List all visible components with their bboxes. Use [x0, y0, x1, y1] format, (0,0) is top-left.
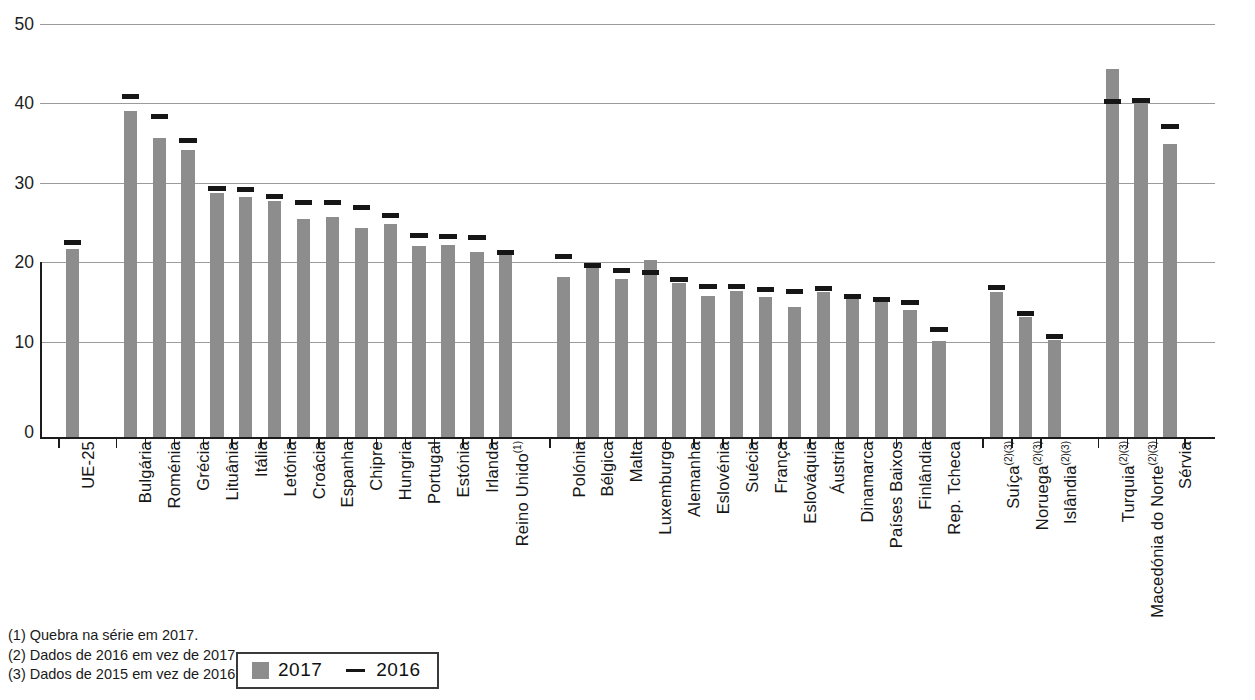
- bar-group: [355, 14, 368, 439]
- bar-2017: [1134, 102, 1147, 437]
- x-axis-label-let-nia: Letónia: [281, 441, 300, 497]
- bar-group: [644, 14, 657, 439]
- x-axis-label-est-nia: Estónia: [454, 441, 473, 497]
- x-axis-label--ustria: Áustria: [829, 441, 848, 494]
- y-tick-label-30: 30: [15, 173, 34, 194]
- bar-2017: [470, 252, 483, 437]
- bar-group: [615, 14, 628, 439]
- y-tick-label-50: 50: [15, 14, 34, 35]
- bar-2017: [1048, 340, 1061, 437]
- marker-2016: [208, 186, 225, 191]
- marker-2016: [237, 187, 254, 192]
- marker-2016: [1132, 98, 1149, 103]
- x-axis-label-chipre: Chipre: [367, 441, 386, 491]
- x-axis-label-pa-ses-baixos: Países Baixos: [887, 441, 906, 548]
- bar-group: [412, 14, 425, 439]
- y-axis-labels: 50 40 30 20 10 0: [0, 14, 40, 439]
- x-axis-labels: UE-25BulgáriaRoméniaGréciaLituâniaItália…: [40, 441, 1215, 611]
- bar-2017: [730, 291, 743, 437]
- marker-2016: [1046, 334, 1063, 339]
- x-axis-label-eslov-nia: Eslovénia: [714, 441, 733, 514]
- y-tick-label-0: 0: [24, 422, 34, 443]
- marker-2016: [64, 240, 81, 245]
- bar-group: [1106, 14, 1119, 439]
- bar-2017: [326, 217, 339, 437]
- marker-2016: [555, 254, 572, 259]
- marker-2016: [497, 250, 514, 255]
- x-axis-label-noruega: Noruega(2)(3): [1032, 441, 1052, 530]
- bar-group: [672, 14, 685, 439]
- marker-2016: [324, 200, 341, 205]
- bar-group: [66, 14, 79, 439]
- x-axis-label-ue-25: UE-25: [79, 441, 98, 489]
- bar-group: [990, 14, 1003, 439]
- marker-2016: [988, 285, 1005, 290]
- bar-group: [788, 14, 801, 439]
- bar-group: [1134, 14, 1147, 439]
- marker-2016: [151, 114, 168, 119]
- bar-series-layer: [40, 14, 1215, 439]
- legend-label-2016: 2016: [376, 659, 420, 681]
- x-axis-label-gr-cia: Grécia: [194, 441, 213, 491]
- x-axis-label-it-lia: Itália: [252, 441, 271, 477]
- x-axis-label-reino-unido: Reino Unido(1): [512, 441, 532, 546]
- chart-canvas: 50 40 30 20 10 0 UE-25BulgáriaRoméniaGré…: [0, 0, 1255, 700]
- x-axis-label-pol-nia: Polónia: [570, 441, 589, 497]
- x-axis-label-alemanha: Alemanha: [685, 441, 704, 517]
- marker-2016: [382, 213, 399, 218]
- x-axis-label-malta: Malta: [627, 441, 646, 482]
- legend-item-2016: 2016: [332, 659, 420, 681]
- y-tick-label-10: 10: [15, 332, 34, 353]
- x-axis-label-s-rvia: Sérvia: [1176, 441, 1195, 489]
- bar-2017: [441, 245, 454, 437]
- bar-group: [384, 14, 397, 439]
- bar-group: [701, 14, 714, 439]
- marker-2016: [757, 287, 774, 292]
- marker-2016: [873, 297, 890, 302]
- bar-2017: [903, 310, 916, 437]
- bar-2017: [990, 292, 1003, 437]
- bar-group: [932, 14, 945, 439]
- bar-2017: [124, 111, 137, 437]
- footnote-3: (3) Dados de 2015 em vez de 2016.: [8, 665, 239, 685]
- bar-group: [1163, 14, 1176, 439]
- marker-2016: [613, 268, 630, 273]
- marker-2016: [122, 94, 139, 99]
- marker-2016: [1161, 124, 1178, 129]
- bar-2017: [1106, 69, 1119, 437]
- marker-2016: [410, 233, 427, 238]
- marker-2016: [844, 294, 861, 299]
- bar-group: [181, 14, 194, 439]
- footnotes: (1) Quebra na série em 2017. (2) Dados d…: [8, 626, 239, 685]
- marker-2016: [930, 327, 947, 332]
- marker-2016: [353, 205, 370, 210]
- bar-group: [846, 14, 859, 439]
- x-axis-label-rep-tcheca: Rep. Tcheca: [945, 441, 964, 535]
- bar-group: [875, 14, 888, 439]
- bar-2017: [1163, 144, 1176, 437]
- bar-group: [1019, 14, 1032, 439]
- x-axis-label-isl-ndia: Islândia(2)(3): [1060, 441, 1080, 524]
- x-axis-label-turquia: Turquia(2)(3): [1118, 441, 1138, 522]
- bar-swatch-icon: [252, 662, 269, 679]
- bar-group: [441, 14, 454, 439]
- bar-2017: [615, 279, 628, 437]
- marker-2016: [699, 284, 716, 289]
- bar-group: [557, 14, 570, 439]
- bar-group: [730, 14, 743, 439]
- x-axis-label-espanha: Espanha: [338, 441, 357, 508]
- legend-label-2017: 2017: [278, 659, 322, 681]
- bar-2017: [412, 246, 425, 437]
- y-tick-label-20: 20: [15, 252, 34, 273]
- x-axis-label-cro-cia: Croácia: [310, 441, 329, 499]
- bar-2017: [557, 277, 570, 437]
- marker-2016: [1104, 99, 1121, 104]
- bar-2017: [817, 292, 830, 437]
- bar-group: [239, 14, 252, 439]
- bar-2017: [1019, 317, 1032, 437]
- bar-2017: [297, 219, 310, 437]
- marker-2016: [815, 286, 832, 291]
- bar-group: [297, 14, 310, 439]
- bar-group: [759, 14, 772, 439]
- bar-2017: [932, 341, 945, 437]
